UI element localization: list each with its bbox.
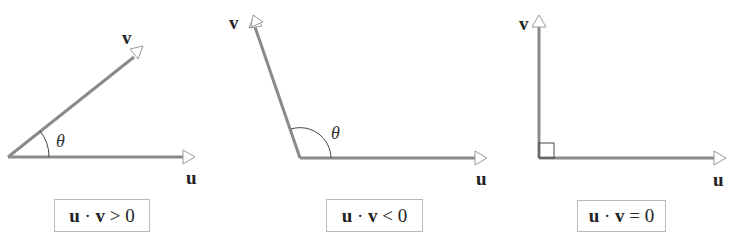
formula-rhs: 0 <box>125 205 135 227</box>
formula-u: u <box>342 205 353 227</box>
formula-relation: = <box>629 205 640 227</box>
formula-box-negative: u · v < 0 <box>326 199 423 232</box>
formula-u: u <box>69 205 80 227</box>
arrowhead-v-icon <box>532 15 546 27</box>
formula-v: v <box>368 205 378 227</box>
angle-theta-label: θ <box>331 124 340 142</box>
vector-v-label: v <box>519 14 529 33</box>
panel-acute <box>8 46 195 164</box>
formula-relation: > <box>110 205 121 227</box>
angle-arc <box>40 131 49 157</box>
vector-u-label: u <box>713 170 724 189</box>
vector-v-label: v <box>122 28 132 47</box>
formula-rhs: 0 <box>398 205 408 227</box>
arrowhead-u-icon <box>475 151 487 165</box>
vector-u-label: u <box>186 168 197 187</box>
vector-v-line <box>8 57 134 157</box>
vector-v-line <box>255 27 300 158</box>
formula-v: v <box>615 205 625 227</box>
arrowhead-u-icon <box>714 151 726 165</box>
formula-rhs: 0 <box>645 205 655 227</box>
vector-v-label: v <box>229 13 239 32</box>
formula-v: v <box>96 205 106 227</box>
formula-box-positive: u · v > 0 <box>54 199 150 232</box>
formula-u: u <box>589 205 600 227</box>
vector-u-label: u <box>476 169 487 188</box>
angle-theta-label: θ <box>56 132 65 150</box>
panel-right <box>532 15 726 165</box>
panel-obtuse <box>249 15 487 165</box>
formula-relation: < <box>382 205 393 227</box>
formula-box-zero: u · v = 0 <box>577 200 666 232</box>
right-angle-marker <box>539 143 554 158</box>
arrowhead-u-icon <box>183 150 195 164</box>
